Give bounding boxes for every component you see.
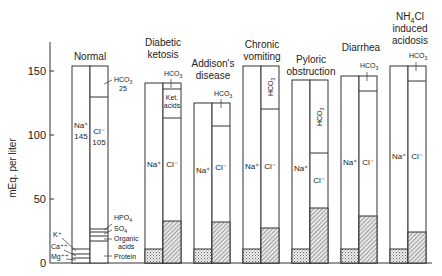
addison-hco3: HCO3 bbox=[214, 90, 233, 99]
chronic-na: Na⁺ bbox=[245, 162, 259, 171]
bar-group-addisons-disease: Addison's disease Na⁺ Cl⁻ HCO3 bbox=[191, 58, 234, 263]
diarrhea-hco3: HCO3 bbox=[360, 62, 379, 71]
label-addison-1: Addison's bbox=[191, 58, 234, 69]
normal-hco3-value: 25 bbox=[119, 85, 127, 92]
protein-label: Protein bbox=[114, 253, 136, 260]
normal-cl-value: 105 bbox=[92, 138, 106, 147]
bar-group-normal: Normal Na⁺ 145 Cl⁻ 105 HCO3 25 HPO4 SO4 … bbox=[51, 51, 139, 263]
label-nh4cl-2: induced bbox=[392, 23, 427, 34]
bar-group-pyloric-obstruction: Pyloric obstruction Na⁺ Cl⁻ HCO3 bbox=[287, 54, 336, 263]
addison-na: Na⁺ bbox=[196, 166, 210, 175]
label-nh4cl-3: acidosis bbox=[392, 35, 428, 46]
electrolyte-chart: 0 50 100 150 mEq. per liter Normal Na⁺ 1… bbox=[0, 0, 442, 276]
bar-group-nh4cl-acidosis: NH4Cl induced acidosis Na⁺ Cl⁻ HCO3 bbox=[390, 11, 428, 263]
pyloric-cl: Cl⁻ bbox=[313, 176, 325, 185]
tick-0: 0 bbox=[40, 257, 46, 269]
addison-cl: Cl⁻ bbox=[215, 163, 227, 172]
label-normal: Normal bbox=[74, 51, 106, 62]
acids-label: acids bbox=[164, 102, 181, 109]
bar-group-diarrhea: Diarrhea Na⁺ Cl⁻ HCO3 bbox=[341, 42, 381, 263]
label-pyloric-1: Pyloric bbox=[296, 54, 326, 65]
normal-cation-bar bbox=[72, 66, 90, 263]
diabetic-hco3: HCO3 bbox=[164, 70, 183, 79]
so4-label: SO4 bbox=[114, 225, 127, 234]
organic-acids-label: Organic bbox=[114, 235, 139, 243]
diabetic-cl: Cl⁻ bbox=[166, 160, 178, 169]
chronic-cl: Cl⁻ bbox=[264, 162, 276, 171]
label-chronic-1: Chronic bbox=[245, 39, 279, 50]
diarrhea-na: Na⁺ bbox=[343, 158, 357, 167]
mg-label: Mg⁺⁺ bbox=[51, 253, 69, 261]
label-diarrhea: Diarrhea bbox=[342, 42, 381, 53]
organic-acids-label-2: acids bbox=[118, 243, 135, 250]
ket-label: Ket. bbox=[166, 94, 179, 101]
normal-cl-label: Cl⁻ bbox=[93, 127, 105, 136]
nh4cl-hco3: HCO3 bbox=[409, 52, 428, 61]
pyloric-na: Na⁺ bbox=[294, 164, 308, 173]
diabetic-na: Na⁺ bbox=[147, 160, 161, 169]
diarrhea-cl: Cl⁻ bbox=[362, 158, 374, 167]
ca-label: Ca⁺⁺ bbox=[51, 243, 68, 250]
label-addison-2: disease bbox=[196, 70, 231, 81]
normal-na-value: 145 bbox=[74, 132, 88, 141]
y-axis-label: mEq. per liter bbox=[7, 138, 18, 198]
label-diabetic-1: Diabetic bbox=[145, 37, 181, 48]
k-label: K⁺ bbox=[53, 231, 62, 238]
label-diabetic-2: ketosis bbox=[147, 49, 178, 60]
nh4cl-na: Na⁺ bbox=[392, 152, 406, 161]
label-chronic-2: vomiting bbox=[243, 51, 280, 62]
tick-150: 150 bbox=[28, 65, 46, 77]
tick-50: 50 bbox=[34, 193, 46, 205]
hpo4-label: HPO4 bbox=[114, 214, 132, 223]
normal-hco3-label: HCO3 bbox=[114, 76, 133, 85]
bar-group-chronic-vomiting: Chronic vomiting Na⁺ Cl⁻ HCO3 bbox=[243, 39, 281, 263]
tick-100: 100 bbox=[28, 129, 46, 141]
nh4cl-cl: Cl⁻ bbox=[411, 152, 423, 161]
normal-na-label: Na⁺ bbox=[74, 121, 88, 130]
bar-group-diabetic-ketosis: Diabetic ketosis Na⁺ Cl⁻ Ket. acids HCO3 bbox=[145, 37, 183, 263]
label-pyloric-2: obstruction bbox=[287, 66, 336, 77]
